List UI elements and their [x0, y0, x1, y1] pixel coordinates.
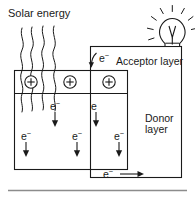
- donor-layer-line2: layer: [145, 123, 168, 135]
- electron-down-arrow-icon: [93, 112, 99, 127]
- electron-down-arrow-icon: [116, 142, 122, 157]
- circuit-electron-label: e−: [103, 169, 113, 180]
- acceptor-curved-arrow-icon: [89, 53, 97, 68]
- donor-electron-label-5: e−: [114, 131, 124, 142]
- donor-electron-label-1: e−: [50, 101, 60, 112]
- acceptor-layer-label: Acceptor layer: [116, 56, 183, 67]
- acceptor-electron-label: e−: [99, 53, 109, 64]
- electron-down-arrow-icon: [74, 142, 80, 157]
- donor-electron-label-3: e−: [21, 131, 31, 142]
- plus-circle-icon: [64, 76, 76, 88]
- plus-circle-icon: [25, 76, 37, 88]
- solar-energy-label: Solar energy: [8, 8, 70, 20]
- donor-electron-label-4: e−: [72, 131, 82, 142]
- plus-circle-icon-group: [25, 76, 115, 88]
- lightbulb-icon: [147, 6, 194, 47]
- donor-electron-label-2: e: [91, 101, 97, 112]
- diagram-canvas: [0, 0, 195, 200]
- electron-down-arrow-icon: [23, 142, 29, 157]
- circuit-right-arrow-icon: [120, 171, 144, 177]
- electron-down-arrow-icon: [52, 112, 58, 127]
- plus-circle-icon: [103, 76, 115, 88]
- donor-layer-label: Donor layer: [145, 113, 174, 135]
